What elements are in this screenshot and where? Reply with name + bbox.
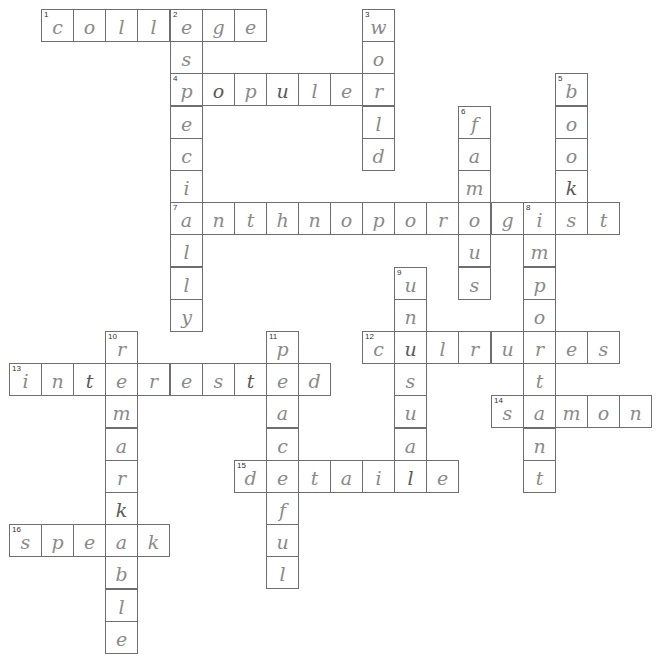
crossword-cell[interactable]: a xyxy=(105,524,138,557)
crossword-cell[interactable]: p xyxy=(523,267,556,300)
crossword-cell[interactable]: o xyxy=(394,202,427,235)
crossword-cell[interactable]: l xyxy=(105,9,138,42)
crossword-cell[interactable]: l xyxy=(394,460,427,493)
crossword-cell[interactable]: r xyxy=(458,331,491,364)
crossword-cell[interactable]: l xyxy=(298,73,331,106)
crossword-cell[interactable]: t xyxy=(234,363,267,396)
crossword-cell[interactable]: r xyxy=(137,363,170,396)
crossword-cell[interactable]: r xyxy=(523,331,556,364)
crossword-cell[interactable]: k xyxy=(555,170,588,203)
crossword-cell[interactable]: t xyxy=(234,202,267,235)
crossword-cell[interactable]: 5b xyxy=(555,73,588,106)
crossword-cell[interactable]: p xyxy=(234,73,267,106)
crossword-cell[interactable]: 16s xyxy=(9,524,42,557)
crossword-cell[interactable]: 12c xyxy=(362,331,395,364)
crossword-cell[interactable]: a xyxy=(105,428,138,461)
crossword-cell[interactable]: p xyxy=(41,524,74,557)
crossword-cell[interactable]: 4p xyxy=(170,73,203,106)
crossword-cell[interactable]: n xyxy=(619,395,652,428)
crossword-cell[interactable]: l xyxy=(266,556,299,589)
crossword-cell[interactable]: c xyxy=(170,138,203,171)
crossword-cell[interactable]: o xyxy=(330,202,363,235)
crossword-cell[interactable]: g xyxy=(491,202,524,235)
crossword-cell[interactable]: 1c xyxy=(41,9,74,42)
crossword-cell[interactable]: 14s xyxy=(491,395,524,428)
crossword-cell[interactable]: e xyxy=(105,621,138,654)
crossword-cell[interactable]: e xyxy=(555,331,588,364)
crossword-cell[interactable]: o xyxy=(458,202,491,235)
crossword-cell[interactable]: k xyxy=(105,492,138,525)
crossword-cell[interactable]: l xyxy=(362,106,395,139)
crossword-cell[interactable]: r xyxy=(362,73,395,106)
crossword-cell[interactable]: e xyxy=(426,460,459,493)
crossword-cell[interactable]: u xyxy=(266,73,299,106)
crossword-cell[interactable]: d xyxy=(298,363,331,396)
crossword-cell[interactable]: 3w xyxy=(362,9,395,42)
crossword-cell[interactable]: o xyxy=(555,106,588,139)
crossword-cell[interactable]: 15d xyxy=(234,460,267,493)
crossword-cell[interactable]: t xyxy=(523,460,556,493)
crossword-cell[interactable]: u xyxy=(491,331,524,364)
crossword-cell[interactable]: t xyxy=(523,363,556,396)
crossword-cell[interactable]: s xyxy=(202,363,235,396)
crossword-cell[interactable]: e xyxy=(73,524,106,557)
crossword-cell[interactable]: n xyxy=(394,299,427,332)
crossword-cell[interactable]: l xyxy=(170,267,203,300)
crossword-cell[interactable]: t xyxy=(298,460,331,493)
crossword-cell[interactable]: s xyxy=(394,363,427,396)
crossword-cell[interactable]: e xyxy=(105,363,138,396)
crossword-cell[interactable]: e xyxy=(170,106,203,139)
crossword-cell[interactable]: t xyxy=(587,202,620,235)
crossword-cell[interactable]: p xyxy=(362,202,395,235)
crossword-cell[interactable]: r xyxy=(426,202,459,235)
crossword-cell[interactable]: s xyxy=(458,267,491,300)
crossword-cell[interactable]: e xyxy=(234,9,267,42)
crossword-cell[interactable]: 6f xyxy=(458,106,491,139)
crossword-cell[interactable]: m xyxy=(523,234,556,267)
crossword-cell[interactable]: m xyxy=(555,395,588,428)
crossword-cell[interactable]: a xyxy=(523,395,556,428)
crossword-cell[interactable]: i xyxy=(170,170,203,203)
crossword-cell[interactable]: a xyxy=(458,138,491,171)
crossword-cell[interactable]: f xyxy=(266,492,299,525)
crossword-cell[interactable]: o xyxy=(362,41,395,74)
crossword-cell[interactable]: l xyxy=(426,331,459,364)
crossword-cell[interactable]: s xyxy=(555,202,588,235)
crossword-cell[interactable]: u xyxy=(394,331,427,364)
crossword-cell[interactable]: m xyxy=(105,395,138,428)
crossword-cell[interactable]: s xyxy=(170,41,203,74)
crossword-cell[interactable]: d xyxy=(362,138,395,171)
crossword-cell[interactable]: u xyxy=(266,524,299,557)
crossword-cell[interactable]: m xyxy=(458,170,491,203)
crossword-cell[interactable]: e xyxy=(170,363,203,396)
crossword-cell[interactable]: i xyxy=(362,460,395,493)
crossword-cell[interactable]: u xyxy=(458,234,491,267)
crossword-cell[interactable]: a xyxy=(330,460,363,493)
crossword-cell[interactable]: o xyxy=(555,138,588,171)
crossword-cell[interactable]: y xyxy=(170,299,203,332)
crossword-cell[interactable]: 11p xyxy=(266,331,299,364)
crossword-cell[interactable]: r xyxy=(105,460,138,493)
crossword-cell[interactable]: u xyxy=(394,395,427,428)
crossword-cell[interactable]: e xyxy=(266,460,299,493)
crossword-cell[interactable]: h xyxy=(266,202,299,235)
crossword-cell[interactable]: n xyxy=(41,363,74,396)
crossword-cell[interactable]: 2e xyxy=(170,9,203,42)
crossword-cell[interactable]: 8i xyxy=(523,202,556,235)
crossword-cell[interactable]: l xyxy=(170,234,203,267)
crossword-cell[interactable]: o xyxy=(523,299,556,332)
crossword-cell[interactable]: a xyxy=(266,395,299,428)
crossword-cell[interactable]: e xyxy=(266,363,299,396)
crossword-cell[interactable]: 7a xyxy=(170,202,203,235)
crossword-cell[interactable]: n xyxy=(298,202,331,235)
crossword-cell[interactable]: 10r xyxy=(105,331,138,364)
crossword-cell[interactable]: s xyxy=(587,331,620,364)
crossword-cell[interactable]: g xyxy=(202,9,235,42)
crossword-cell[interactable]: 9u xyxy=(394,267,427,300)
crossword-cell[interactable]: t xyxy=(73,363,106,396)
crossword-cell[interactable]: e xyxy=(330,73,363,106)
crossword-cell[interactable]: n xyxy=(523,428,556,461)
crossword-cell[interactable]: o xyxy=(202,73,235,106)
crossword-cell[interactable]: c xyxy=(266,428,299,461)
crossword-cell[interactable]: 13i xyxy=(9,363,42,396)
